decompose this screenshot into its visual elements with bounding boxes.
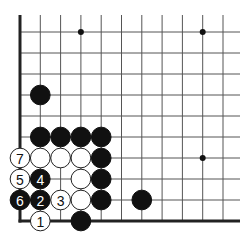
- stone-white-move-1: 1: [30, 211, 50, 231]
- stone-white: [71, 148, 91, 168]
- stone-black: [30, 85, 50, 105]
- stone-black: [71, 127, 91, 147]
- black-stone-icon: [51, 127, 71, 147]
- black-stone-icon: [91, 127, 111, 147]
- black-stone-icon: [91, 148, 111, 168]
- star-point: [200, 155, 206, 161]
- stone-black-move-6: 6: [10, 190, 30, 210]
- move-number: 7: [16, 151, 24, 167]
- black-stone-icon: [91, 169, 111, 189]
- black-stone-icon: [71, 211, 91, 231]
- move-number: 1: [36, 214, 44, 230]
- white-stone-icon: [71, 190, 91, 210]
- stone-black-move-4: 4: [30, 169, 50, 189]
- stone-black: [71, 211, 91, 231]
- stone-black: [91, 127, 111, 147]
- white-stone-icon: [30, 148, 50, 168]
- star-point: [200, 29, 206, 35]
- white-stone-icon: [71, 169, 91, 189]
- black-stone-icon: [132, 190, 152, 210]
- grid-lines: [20, 15, 240, 221]
- stone-black-move-2: 2: [30, 190, 50, 210]
- stone-white: [51, 148, 71, 168]
- move-number: 5: [16, 172, 24, 188]
- stone-black: [91, 190, 111, 210]
- board-edges: [19, 15, 241, 223]
- move-number: 4: [36, 172, 44, 188]
- black-stone-icon: [71, 127, 91, 147]
- stone-black: [30, 127, 50, 147]
- white-stone-icon: [51, 148, 71, 168]
- stone-black: [51, 127, 71, 147]
- star-point: [78, 29, 84, 35]
- stone-black: [132, 190, 152, 210]
- stone-white-move-7: 7: [10, 148, 30, 168]
- stone-white: [71, 190, 91, 210]
- stone-black: [91, 169, 111, 189]
- stone-white: [71, 169, 91, 189]
- move-number: 6: [16, 193, 24, 209]
- move-number: 2: [36, 193, 44, 209]
- stone-white-move-3: 3: [51, 190, 71, 210]
- stone-white: [30, 148, 50, 168]
- stone-black: [91, 148, 111, 168]
- go-board: 7546231: [0, 0, 248, 247]
- white-stone-icon: [71, 148, 91, 168]
- move-number: 3: [57, 193, 65, 209]
- black-stone-icon: [30, 85, 50, 105]
- black-stone-icon: [91, 190, 111, 210]
- stone-white-move-5: 5: [10, 169, 30, 189]
- black-stone-icon: [30, 127, 50, 147]
